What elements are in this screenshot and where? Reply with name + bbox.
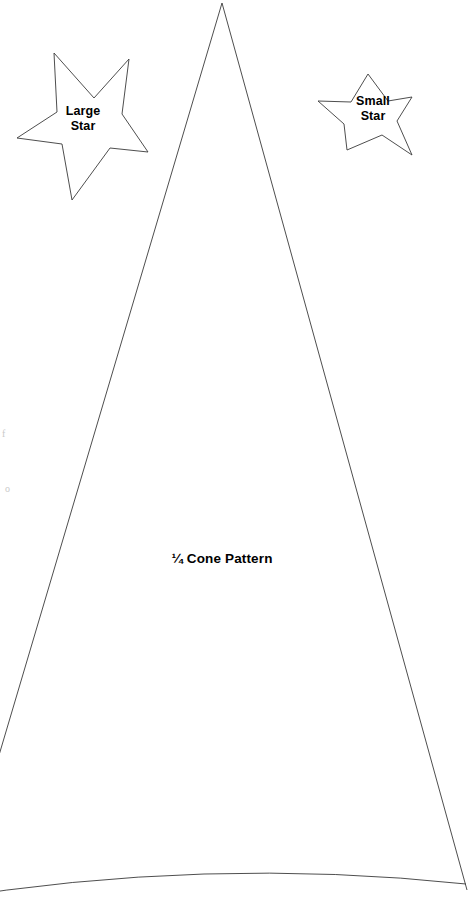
large-star-label: Large Star [47,104,119,134]
margin-mark-glyph: o [5,484,10,494]
pattern-page: Large Star Small Star ¼ Cone Pattern f o [0,0,472,907]
pattern-drawing-canvas [0,0,472,907]
cone-pattern-label: ¼ Cone Pattern [122,551,322,567]
cone-left-edge-line [0,3,222,907]
cone-pattern-shape [0,3,467,907]
cone-right-edge-line [222,3,467,890]
margin-mark-glyph: f [2,429,5,439]
cone-base-arc-line [0,873,466,900]
small-star-label: Small Star [338,94,408,124]
